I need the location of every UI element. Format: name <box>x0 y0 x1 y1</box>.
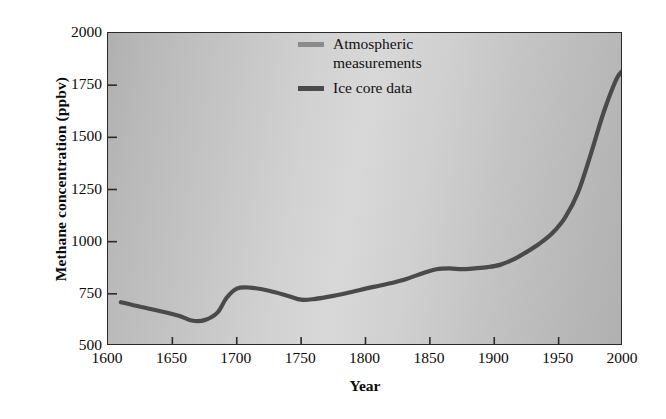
x-tick-label-1700: 1700 <box>204 350 268 366</box>
chart-legend: AtmosphericmeasurementsIce core data <box>298 34 508 104</box>
x-tick-label-1650: 1650 <box>139 350 203 366</box>
x-tick-label-2000: 2000 <box>590 350 654 366</box>
y-tick-label-1750: 1750 <box>46 76 102 92</box>
y-tick-label-750: 750 <box>46 285 102 301</box>
legend-line-swatch-icon <box>298 42 324 47</box>
legend-item-0: Atmosphericmeasurements <box>298 34 508 72</box>
data-series-lines <box>121 71 622 322</box>
x-axis-title: Year <box>107 377 623 395</box>
legend-line-swatch-icon <box>298 86 324 91</box>
x-tick-label-1800: 1800 <box>333 350 397 366</box>
legend-item-label: Ice core data <box>333 78 412 97</box>
x-tick-label-1900: 1900 <box>461 350 525 366</box>
y-tick-label-2000: 2000 <box>46 24 102 40</box>
x-tick-label-1950: 1950 <box>526 350 590 366</box>
legend-item-label: Atmosphericmeasurements <box>333 34 422 72</box>
methane-concentration-chart: Methane concentration (ppbv) 50075010001… <box>0 0 666 419</box>
legend-label-line2: measurements <box>333 54 422 71</box>
legend-label-line1: Atmospheric <box>333 35 413 52</box>
series-line-1 <box>121 71 622 322</box>
x-tick-label-1850: 1850 <box>397 350 461 366</box>
y-tick-label-1000: 1000 <box>46 233 102 249</box>
legend-label-line1: Ice core data <box>333 79 412 96</box>
x-tick-label-1600: 1600 <box>75 350 139 366</box>
y-tick-label-1250: 1250 <box>46 181 102 197</box>
y-tick-label-1500: 1500 <box>46 128 102 144</box>
legend-item-1: Ice core data <box>298 78 508 97</box>
x-tick-label-1750: 1750 <box>268 350 332 366</box>
axis-tick-marks <box>108 85 559 345</box>
